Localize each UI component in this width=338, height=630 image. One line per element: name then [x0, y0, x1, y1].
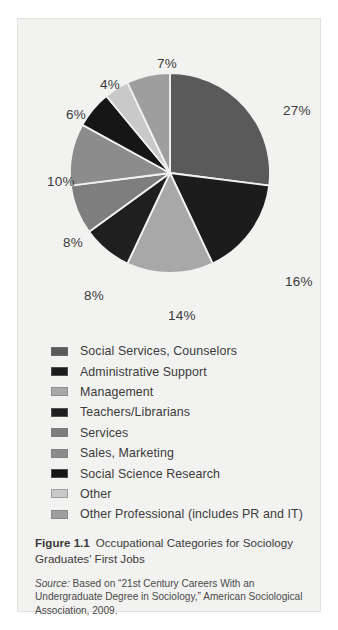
pie-slice	[170, 73, 270, 186]
legend-item-label: Services	[80, 426, 128, 440]
legend-item: Services	[18, 423, 322, 443]
pie-value-label: 10%	[47, 174, 75, 189]
legend-item-label: Social Services, Counselors	[80, 344, 237, 358]
legend-item-label: Other	[80, 487, 112, 501]
legend-item: Other Professional (includes PR and IT)	[18, 504, 322, 524]
legend-item: Sales, Marketing	[18, 443, 322, 463]
figure-caption-block: Figure 1.1Occupational Categories for So…	[18, 535, 322, 617]
figure-caption: Figure 1.1Occupational Categories for So…	[35, 535, 305, 566]
legend-item-label: Management	[80, 385, 153, 399]
legend-swatch-icon	[51, 469, 68, 478]
legend-item: Social Science Research	[18, 463, 322, 483]
pie-chart: 27%16%14%8%8%10%6%4%7%	[18, 19, 322, 331]
legend-swatch-icon	[51, 387, 68, 396]
legend-swatch-icon	[51, 367, 68, 376]
legend-item: Other	[18, 484, 322, 504]
legend-item-label: Social Science Research	[80, 467, 220, 481]
legend-item-label: Teachers/Librarians	[80, 405, 190, 419]
pie-value-label: 14%	[168, 308, 196, 323]
legend-item-label: Other Professional (includes PR and IT)	[80, 507, 303, 521]
source-citation: Based on “21st Century Careers With an U…	[35, 578, 302, 616]
figure-container: 27%16%14%8%8%10%6%4%7% Social Services, …	[17, 18, 321, 612]
figure-number: Figure 1.1	[35, 536, 90, 549]
pie-value-label: 7%	[157, 56, 177, 71]
pie-value-label: 27%	[283, 103, 311, 118]
legend-item: Teachers/Librarians	[18, 402, 322, 422]
legend-item: Social Services, Counselors	[18, 341, 322, 361]
pie-slice-group	[70, 73, 270, 273]
pie-value-label: 4%	[100, 77, 120, 92]
legend-item: Management	[18, 382, 322, 402]
pie-value-label: 6%	[66, 107, 86, 122]
legend-swatch-icon	[51, 428, 68, 437]
legend-item: Administrative Support	[18, 361, 322, 381]
chart-legend: Social Services, Counselors Administrati…	[18, 341, 322, 525]
source-label: Source:	[35, 578, 70, 589]
legend-swatch-icon	[51, 489, 68, 498]
legend-item-label: Sales, Marketing	[80, 446, 174, 460]
legend-item-label: Administrative Support	[80, 365, 207, 379]
pie-value-label: 8%	[84, 288, 104, 303]
legend-swatch-icon	[51, 408, 68, 417]
legend-swatch-icon	[51, 449, 68, 458]
legend-swatch-icon	[51, 347, 68, 356]
pie-value-label: 8%	[63, 235, 83, 250]
figure-source: Source: Based on “21st Century Careers W…	[35, 577, 305, 617]
pie-value-label: 16%	[285, 274, 313, 289]
legend-swatch-icon	[51, 510, 68, 519]
